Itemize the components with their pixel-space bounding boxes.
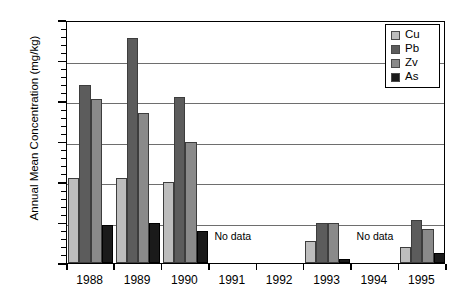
y-axis-minor-tick bbox=[61, 247, 66, 248]
bar-cu-1993 bbox=[305, 241, 316, 263]
bar-as-1993 bbox=[339, 259, 350, 263]
bar-zv-1989 bbox=[138, 113, 149, 263]
x-axis-tick bbox=[350, 264, 352, 270]
y-axis-minor-tick bbox=[61, 255, 66, 256]
y-axis-minor-tick bbox=[61, 69, 66, 70]
y-axis-minor-tick bbox=[61, 29, 66, 30]
gridline bbox=[67, 144, 444, 145]
y-axis-major-tick bbox=[58, 20, 66, 22]
bar-pb-1989 bbox=[127, 38, 138, 263]
y-axis-major-tick bbox=[58, 142, 66, 144]
x-axis-tick bbox=[303, 264, 305, 270]
bar-pb-1995 bbox=[411, 220, 422, 263]
bar-as-1990 bbox=[197, 231, 208, 263]
x-axis-tick bbox=[256, 264, 258, 270]
y-axis-minor-tick bbox=[61, 85, 66, 86]
bar-chart: Annual Mean Concentration (mg/kg) No dat… bbox=[0, 0, 467, 301]
y-axis-minor-tick bbox=[61, 77, 66, 78]
legend-item-zv[interactable]: Zv bbox=[391, 56, 439, 70]
bar-zv-1993 bbox=[328, 223, 339, 264]
bar-cu-1989 bbox=[116, 178, 127, 263]
y-axis-minor-tick bbox=[61, 207, 66, 208]
y-axis-minor-tick bbox=[61, 191, 66, 192]
bar-as-1988 bbox=[102, 225, 113, 263]
x-axis-tick bbox=[66, 264, 68, 270]
legend-swatch-icon bbox=[391, 59, 400, 68]
y-axis-major-tick bbox=[58, 223, 66, 225]
bar-cu-1990 bbox=[163, 182, 174, 263]
bar-as-1995 bbox=[434, 253, 445, 263]
bar-zv-1995 bbox=[422, 229, 433, 263]
y-axis-minor-tick bbox=[61, 158, 66, 159]
bar-pb-1993 bbox=[316, 223, 327, 264]
x-axis-tick bbox=[161, 264, 163, 270]
no-data-annotation: No data bbox=[214, 230, 251, 242]
y-axis-minor-tick bbox=[61, 53, 66, 54]
gridline bbox=[67, 103, 444, 104]
x-axis-tick bbox=[208, 264, 210, 270]
x-axis-tick bbox=[398, 264, 400, 270]
y-axis-major-tick bbox=[58, 263, 66, 265]
legend-item-pb[interactable]: Pb bbox=[391, 42, 439, 56]
legend-swatch-icon bbox=[391, 73, 400, 82]
y-axis-minor-tick bbox=[61, 134, 66, 135]
x-axis-tick bbox=[445, 264, 447, 270]
x-axis-tick bbox=[113, 264, 115, 270]
y-axis-title: Annual Mean Concentration (mg/kg) bbox=[28, 8, 40, 248]
y-axis-minor-tick bbox=[61, 118, 66, 119]
bar-cu-1988 bbox=[68, 178, 79, 263]
legend-swatch-icon bbox=[391, 45, 400, 54]
y-axis-minor-tick bbox=[61, 174, 66, 175]
legend-label: Pb bbox=[405, 43, 419, 55]
y-axis-minor-tick bbox=[61, 126, 66, 127]
legend-swatch-icon bbox=[391, 31, 400, 40]
legend-label: Zv bbox=[405, 57, 418, 69]
y-axis-minor-tick bbox=[61, 150, 66, 151]
bar-zv-1990 bbox=[185, 142, 196, 264]
y-axis-major-tick bbox=[58, 101, 66, 103]
y-axis-minor-tick bbox=[61, 93, 66, 94]
no-data-annotation: No data bbox=[357, 230, 394, 242]
y-axis-minor-tick bbox=[61, 37, 66, 38]
y-axis-minor-tick bbox=[61, 239, 66, 240]
legend-label: As bbox=[405, 71, 418, 83]
bar-pb-1988 bbox=[79, 85, 90, 263]
legend-label: Cu bbox=[405, 29, 420, 41]
bar-pb-1990 bbox=[174, 97, 185, 263]
y-axis-minor-tick bbox=[61, 231, 66, 232]
y-axis-minor-tick bbox=[61, 166, 66, 167]
bar-cu-1995 bbox=[400, 247, 411, 263]
chart-legend: CuPbZvAs bbox=[385, 24, 440, 88]
y-axis-minor-tick bbox=[61, 110, 66, 111]
y-axis-major-tick bbox=[58, 182, 66, 184]
bar-zv-1988 bbox=[91, 99, 102, 263]
y-axis-major-tick bbox=[58, 61, 66, 63]
legend-item-cu[interactable]: Cu bbox=[391, 28, 439, 42]
x-axis-tick-label: 1995 bbox=[391, 273, 451, 287]
y-axis-minor-tick bbox=[61, 45, 66, 46]
legend-item-as[interactable]: As bbox=[391, 70, 439, 84]
y-axis-minor-tick bbox=[61, 215, 66, 216]
y-axis-minor-tick bbox=[61, 199, 66, 200]
bar-as-1989 bbox=[149, 223, 160, 264]
